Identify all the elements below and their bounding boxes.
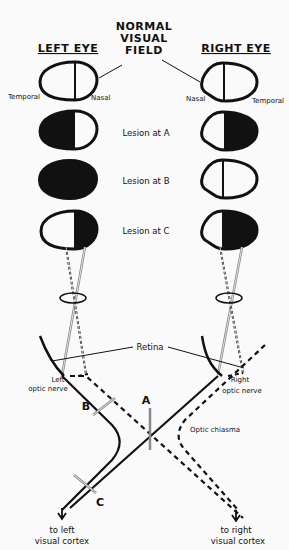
right-eye-field-normal	[202, 63, 257, 101]
left-eye-field-lesion-c	[41, 211, 97, 249]
right-eye-header: RIGHT EYE	[201, 42, 271, 55]
left-cortex-label-1: to left	[49, 525, 75, 535]
lesion-b-letter: B	[82, 400, 90, 413]
lesion-c-label: Lesion at C	[122, 226, 169, 236]
retina-label: Retina	[136, 342, 163, 352]
left-eye-rays	[62, 247, 86, 376]
left-eye-field-lesion-a	[40, 111, 97, 149]
left-nasal-label: Nasal	[91, 94, 110, 102]
right-nasal-label: Nasal	[186, 95, 205, 103]
right-eye-rays	[218, 247, 243, 375]
lesion-a-letter: A	[142, 394, 151, 407]
lesion-c-letter: C	[96, 496, 104, 509]
arrow-right-cortex-icon	[232, 510, 240, 521]
left-eye-header: LEFT EYE	[38, 42, 98, 55]
left-lens	[60, 293, 86, 303]
left-temporal-label: Temporal	[7, 93, 40, 101]
pointer-line-left	[99, 65, 122, 78]
left-optic-nerve-label-2: optic nerve	[28, 385, 68, 393]
pointer-line-right	[162, 60, 200, 82]
arrow-left-cortex-icon	[58, 508, 66, 519]
optic-chiasma-label: Optic chiasma	[190, 426, 240, 434]
right-eye-field-lesion-b	[202, 160, 257, 198]
svg-text:FIELD: FIELD	[125, 44, 163, 57]
left-retina-arc	[40, 336, 64, 376]
left-cortex-label-2: visual cortex	[35, 536, 89, 546]
right-optic-nerve-label-2: optic nerve	[222, 387, 262, 395]
right-optic-nerve-label-1: Right	[231, 376, 250, 384]
left-optic-nerve-label-1: Left	[51, 376, 64, 384]
right-temporal-label: Temporal	[251, 97, 284, 105]
lesion-a-label: Lesion at A	[123, 128, 170, 138]
left-eye-field-normal	[40, 62, 97, 100]
normal-visual-field-title: NORMAL VISUAL FIELD	[116, 20, 173, 57]
retina-pointer-left	[52, 347, 133, 361]
lesion-b-label: Lesion at B	[123, 176, 170, 186]
right-cortex-label-2: visual cortex	[211, 536, 265, 546]
right-eye-field-lesion-a	[202, 112, 257, 150]
left-eye-field-lesion-b	[39, 160, 97, 199]
right-eye-field-lesion-c	[202, 211, 257, 249]
visual-pathway-diagram: NORMAL VISUAL FIELD LEFT EYE RIGHT EYE T…	[0, 0, 289, 550]
right-cortex-label-1: to right	[220, 525, 252, 535]
